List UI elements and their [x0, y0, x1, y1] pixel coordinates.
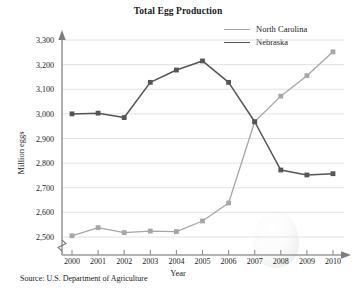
- y-tick-label: 3,100: [20, 85, 54, 94]
- data-series-layer: [70, 49, 336, 238]
- y-tick-label: 3,300: [20, 36, 54, 45]
- y-tick-label: 2,600: [20, 208, 54, 217]
- gridlines: [62, 40, 344, 237]
- y-axis-title: Million eggs: [16, 113, 26, 193]
- source-note: Source: U.S. Department of Agriculture: [20, 274, 148, 283]
- y-tick-label: 2,500: [20, 233, 54, 242]
- x-tick-label: 2010: [318, 257, 348, 266]
- y-tick-label: 3,200: [20, 60, 54, 69]
- egg-production-chart-figure: Total Egg Production North Carolina Nebr…: [0, 0, 356, 294]
